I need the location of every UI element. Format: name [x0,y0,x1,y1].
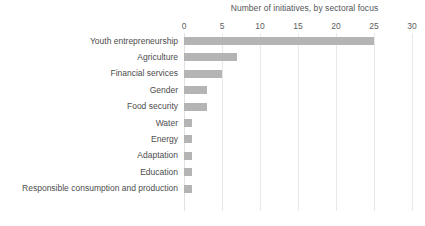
bar-chart: Number of initiatives, by sectoral focus… [0,0,425,226]
bar [184,185,192,193]
bar [184,53,237,61]
bar-row [184,148,412,164]
chart-title: Number of initiatives, by sectoral focus [184,3,425,13]
bar [184,119,192,127]
category-label: Gender [2,85,178,95]
bar-row [184,115,412,131]
bar-row [184,66,412,82]
bar [184,135,192,143]
category-label: Water [2,118,178,128]
bar [184,103,207,111]
x-tick-30: 30 [400,21,424,31]
bar-row [184,49,412,65]
category-label: Adaptation [2,150,178,160]
x-tick-5: 5 [210,21,234,31]
category-label: Energy [2,134,178,144]
x-tick-25: 25 [362,21,386,31]
bar-row [184,131,412,147]
category-label: Education [2,167,178,177]
plot-area [184,33,412,211]
bar-row [184,82,412,98]
bar-row [184,181,412,197]
x-tick-0: 0 [172,21,196,31]
bar [184,152,192,160]
bar-row [184,33,412,49]
bar [184,86,207,94]
category-label: Food security [2,101,178,111]
category-label: Financial services [2,68,178,78]
footnote-text [8,219,308,226]
bar-row [184,164,412,180]
category-label: Youth entrepreneurship [2,36,178,46]
x-tick-15: 15 [286,21,310,31]
bar-row [184,99,412,115]
category-label: Agriculture [2,52,178,62]
category-label: Responsible consumption and production [2,183,178,193]
gridline-30 [412,33,413,211]
category-axis-labels: Youth entrepreneurshipAgricultureFinanci… [0,33,178,211]
x-tick-20: 20 [324,21,348,31]
bar [184,70,222,78]
x-tick-10: 10 [248,21,272,31]
bar [184,37,374,45]
bar [184,168,192,176]
